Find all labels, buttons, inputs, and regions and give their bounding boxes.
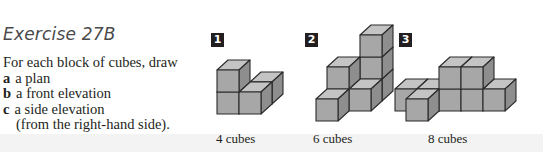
figure-3-cubes	[395, 57, 516, 121]
cube-drawings	[0, 0, 543, 152]
figure-1-caption: 4 cubes	[216, 131, 255, 147]
figure-1-cubes	[217, 60, 283, 114]
figure-2-cubes	[316, 25, 393, 121]
figure-2-caption: 6 cubes	[313, 131, 352, 147]
figure-3-caption: 8 cubes	[428, 131, 467, 147]
